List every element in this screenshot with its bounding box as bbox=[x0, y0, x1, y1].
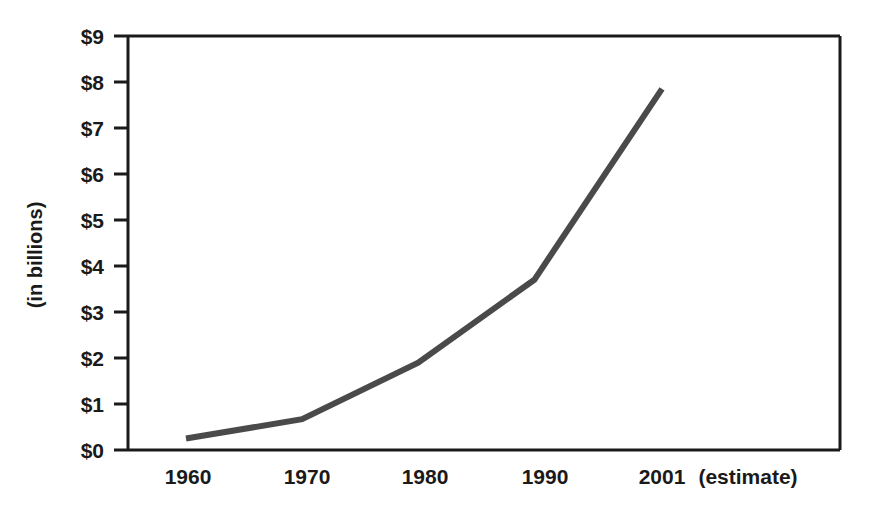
x-tick-label-1960: 1960 bbox=[165, 465, 212, 488]
line-chart: $9 $8 $7 $6 $5 $4 $3 $2 $1 $0 (in billio… bbox=[0, 0, 883, 513]
y-tick-label-9: $9 bbox=[81, 25, 104, 48]
x-tick-label-1990: 1990 bbox=[522, 465, 569, 488]
x-tick-label-2001: 2001 bbox=[639, 465, 686, 488]
chart-figure: $9 $8 $7 $6 $5 $4 $3 $2 $1 $0 (in billio… bbox=[0, 0, 883, 513]
chart-background bbox=[0, 0, 883, 513]
y-tick-label-1: $1 bbox=[81, 393, 105, 416]
y-axis-title: (in billions) bbox=[24, 202, 46, 309]
y-tick-label-3: $3 bbox=[81, 301, 104, 324]
y-tick-label-5: $5 bbox=[81, 209, 105, 232]
y-tick-label-0: $0 bbox=[81, 439, 104, 462]
x-tick-label-1980: 1980 bbox=[402, 465, 449, 488]
y-tick-label-2: $2 bbox=[81, 347, 104, 370]
y-tick-label-4: $4 bbox=[81, 255, 105, 278]
y-tick-label-7: $7 bbox=[81, 117, 104, 140]
x-tick-label-1970: 1970 bbox=[284, 465, 331, 488]
y-tick-label-6: $6 bbox=[81, 163, 104, 186]
x-axis-estimate-note: (estimate) bbox=[698, 465, 797, 488]
y-tick-label-8: $8 bbox=[81, 71, 105, 94]
